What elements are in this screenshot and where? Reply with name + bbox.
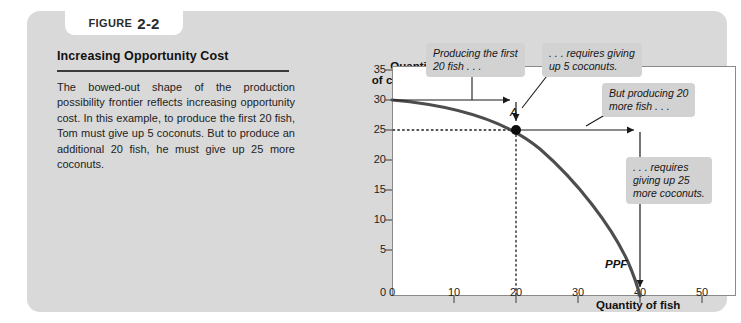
x-tick-40: 40 — [628, 286, 652, 298]
ppf-label: PPF — [605, 258, 627, 270]
title-divider — [57, 70, 289, 72]
caption-column: Increasing Opportunity Cost The bowed-ou… — [35, 49, 307, 172]
y-tick-20: 20 — [360, 153, 386, 165]
figure-page: FIGURE 2-2 Increasing Opportunity Cost T… — [0, 0, 741, 323]
y-axis-ticks — [385, 70, 392, 250]
x-axis-title: Quantity of fish — [596, 299, 680, 311]
y-tick-10: 10 — [360, 213, 386, 225]
figure-word-label: FIGURE — [88, 17, 132, 29]
figure-card: FIGURE 2-2 Increasing Opportunity Cost T… — [27, 11, 727, 312]
figure-description: The bowed-out shape of the production po… — [57, 80, 295, 172]
figure-title: Increasing Opportunity Cost — [35, 49, 307, 63]
y-tick-35: 35 — [360, 63, 386, 75]
y-tick-15: 15 — [360, 183, 386, 195]
callout-requires-giving-up-5: . . . requires giving up 5 coconuts. — [542, 43, 642, 77]
x-tick-0: 0 — [380, 286, 404, 298]
x-tick-50: 50 — [690, 286, 714, 298]
point-a-label: A — [510, 106, 518, 118]
x-tick-30: 30 — [566, 286, 590, 298]
chart-panel: Quantity of coconuts 35 30 25 20 15 10 5… — [364, 22, 741, 312]
callout-requires-giving-up-25: . . . requires giving up 25 more coconut… — [626, 157, 712, 204]
x-tick-20: 20 — [504, 286, 528, 298]
x-tick-10: 10 — [442, 286, 466, 298]
y-tick-5: 5 — [360, 243, 386, 255]
callout-but-producing-20-more: But producing 20 more fish . . . — [602, 83, 695, 117]
y-tick-25: 25 — [360, 123, 386, 135]
callout-producing-first-20-fish: Producing the first 20 fish . . . — [426, 43, 525, 77]
y-tick-30: 30 — [360, 93, 386, 105]
figure-number-label: 2-2 — [137, 15, 159, 32]
figure-number-tab: FIGURE 2-2 — [65, 11, 183, 35]
